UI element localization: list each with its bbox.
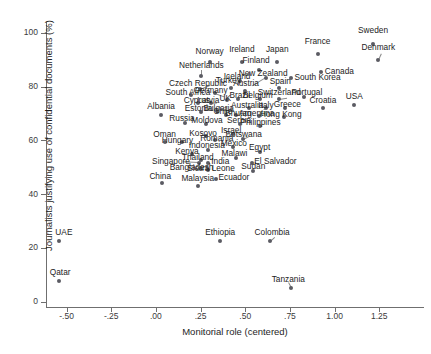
data-point[interactable] [196,184,200,188]
data-point-label: Ecuador [218,173,249,182]
data-point[interactable] [352,103,356,107]
data-point-label: Ethiopia [205,228,235,237]
data-point-label: Austria [233,79,259,88]
data-point-label: UK [220,94,232,103]
data-point-label: Spain [270,77,291,86]
data-point-label: Denmark [361,43,395,52]
scatter-plot-figure: 020406080100 -.50-.25.00.25.50.751.001.2… [0,0,431,354]
data-point-label: Albania [147,102,175,111]
data-point[interactable] [159,113,163,117]
data-point-label: USA [346,92,363,101]
data-point[interactable] [316,52,320,56]
data-point-label: Bangladesh [170,163,214,172]
data-point-label: Sweden [358,26,388,35]
data-point[interactable] [321,106,325,110]
data-point-label: Tanzania [272,275,305,284]
data-point[interactable] [275,60,279,64]
data-point[interactable] [57,279,61,283]
data-point-label: Russia [169,114,194,123]
data-point-label: Japan [266,45,289,54]
data-point[interactable] [376,58,380,62]
data-point-label: Moldova [191,116,222,125]
data-point-label: France [305,37,331,46]
data-point[interactable] [57,239,61,243]
data-point[interactable] [160,181,164,185]
data-point-label: Ireland [229,45,254,54]
data-point-label: Norway [196,47,224,56]
data-point-label: Colombia [255,228,290,237]
data-point-label: Sudan [241,162,265,171]
data-point[interactable] [289,286,293,290]
data-point-label: Croatia [310,96,337,105]
data-point-label: Finland [243,56,270,65]
data-point[interactable] [214,177,218,181]
data-point-label: Brazil [229,91,250,100]
plot-area: SwedenDenmarkFranceCanadaJapanIrelandNor… [0,0,431,354]
data-point[interactable] [268,239,272,243]
data-point-label: South Korea [294,73,340,82]
data-point-label: Greece [274,100,301,109]
data-point-label: Netherlands [179,61,224,70]
data-point[interactable] [218,239,222,243]
data-point-label: Egypt [249,143,270,152]
data-point-label: UAE [55,228,72,237]
data-point-label: China [149,172,171,181]
data-point-label: Malaysia [181,174,214,183]
data-point-label: Qatar [50,268,71,277]
